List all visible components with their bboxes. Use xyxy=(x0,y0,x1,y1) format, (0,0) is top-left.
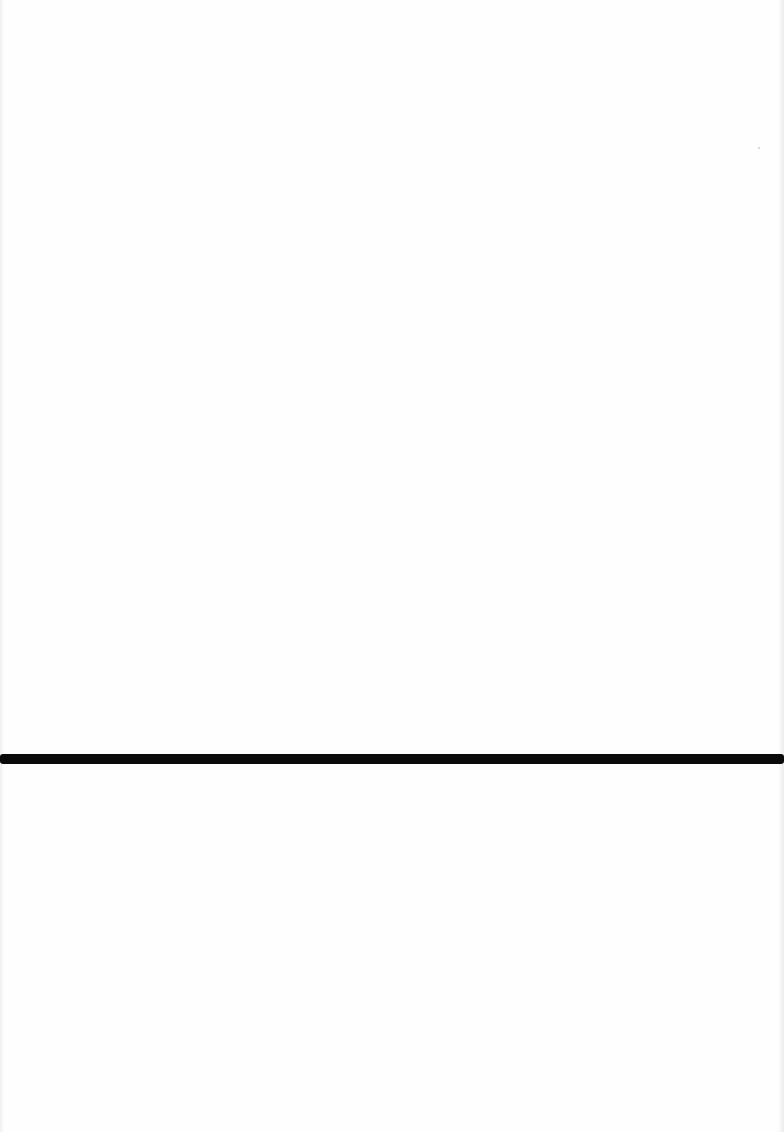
blank-page xyxy=(0,0,784,1132)
scan-speck xyxy=(758,147,760,149)
page-right-edge-shadow xyxy=(778,0,784,1132)
horizontal-divider-rule xyxy=(0,754,784,764)
page-left-edge-shadow xyxy=(0,0,4,1132)
